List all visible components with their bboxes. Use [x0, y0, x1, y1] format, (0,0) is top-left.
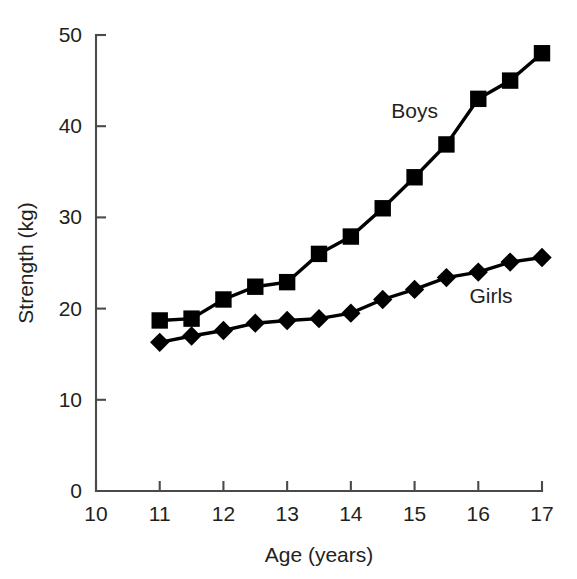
- data-point-girls-11.5: [182, 326, 201, 345]
- data-point-girls-15: [405, 280, 424, 299]
- data-point-boys-15: [406, 169, 422, 185]
- x-axis-title: Age (years): [265, 543, 374, 566]
- data-point-boys-13: [279, 274, 295, 290]
- series-label-boys: Boys: [391, 99, 438, 122]
- data-point-girls-15.5: [437, 268, 456, 287]
- data-point-girls-12.5: [246, 314, 265, 333]
- x-tick-label-15: 15: [403, 502, 426, 525]
- series-label-girls: Girls: [469, 284, 512, 307]
- y-tick-label-40: 40: [59, 114, 82, 137]
- data-point-boys-15.5: [438, 136, 454, 152]
- data-point-boys-13.5: [311, 246, 327, 262]
- y-axis-title: Strength (kg): [14, 202, 37, 323]
- strength-vs-age-chart: 1011121314151617 01020304050 BoysGirls A…: [0, 0, 577, 579]
- data-point-boys-17: [534, 45, 550, 61]
- data-point-girls-13.5: [309, 309, 328, 328]
- x-tick-label-16: 16: [467, 502, 490, 525]
- y-axis-ticks: [96, 35, 106, 400]
- x-tick-label-10: 10: [84, 502, 107, 525]
- x-tick-label-14: 14: [339, 502, 363, 525]
- data-point-boys-14.5: [375, 200, 391, 216]
- x-axis-ticks: [96, 481, 542, 491]
- y-tick-label-10: 10: [59, 388, 82, 411]
- x-tick-label-13: 13: [275, 502, 298, 525]
- data-point-girls-16: [469, 262, 488, 281]
- x-tick-label-17: 17: [530, 502, 553, 525]
- x-tick-label-12: 12: [212, 502, 235, 525]
- chart-canvas: 1011121314151617 01020304050 BoysGirls A…: [0, 0, 577, 579]
- y-tick-label-50: 50: [59, 23, 82, 46]
- data-point-girls-12: [214, 321, 233, 340]
- data-point-girls-14: [341, 303, 360, 322]
- y-tick-label-30: 30: [59, 205, 82, 228]
- data-point-girls-14.5: [373, 290, 392, 309]
- data-point-boys-12.5: [247, 279, 263, 295]
- data-point-boys-16: [470, 91, 486, 107]
- x-axis-tick-labels: 1011121314151617: [84, 502, 553, 525]
- data-point-girls-17: [532, 248, 551, 267]
- data-point-boys-11.5: [183, 310, 199, 326]
- data-point-girls-13: [277, 311, 296, 330]
- data-point-boys-12: [215, 291, 231, 307]
- y-axis-tick-labels: 01020304050: [59, 23, 82, 502]
- data-point-boys-14: [343, 228, 359, 244]
- data-point-boys-16.5: [502, 72, 518, 88]
- data-point-girls-11: [150, 333, 169, 352]
- data-point-boys-11: [152, 312, 168, 328]
- data-point-girls-16.5: [500, 252, 519, 271]
- y-tick-label-20: 20: [59, 297, 82, 320]
- x-tick-label-11: 11: [149, 502, 171, 525]
- y-tick-label-0: 0: [70, 479, 82, 502]
